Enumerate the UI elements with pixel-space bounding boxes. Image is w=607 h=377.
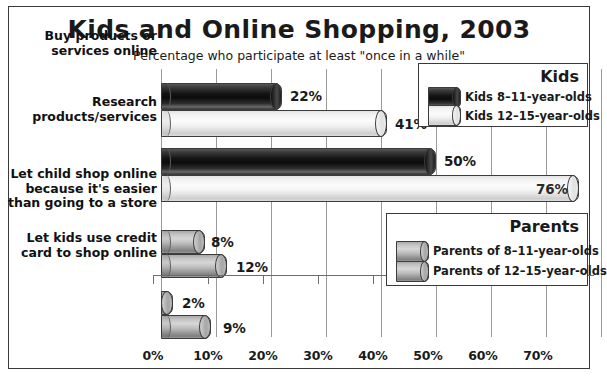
bar-right-cap <box>161 291 173 315</box>
tick-30 <box>318 275 319 284</box>
xtick-label-50: 50% <box>405 348 451 363</box>
category-label-let-child-shop: Let child shop online because it's easie… <box>7 167 157 211</box>
cat-line: services online <box>7 44 157 59</box>
legend-swatch-parents-12-15 <box>396 261 429 282</box>
bar-right-cap <box>567 175 579 202</box>
legend-label-kids-8-11: Kids 8–11-year-olds <box>465 90 592 104</box>
legend-swatch-cap <box>420 261 429 282</box>
cat-line: Buy products or <box>7 29 157 44</box>
chart-frame: Kids and Online Shopping, 2003 Percentag… <box>8 6 590 369</box>
category-labels: Buy products or services online Research… <box>9 7 157 377</box>
cat-line: products/services <box>7 110 157 125</box>
bar-research-kids-12-15 <box>161 175 579 202</box>
legend-parents-title: Parents <box>510 217 579 236</box>
bar-buy-kids-12-15 <box>161 110 387 137</box>
legend-parents: Parents Parents of 8–11-year-olds Parent… <box>386 213 588 286</box>
value-label-2: 2% <box>182 295 205 311</box>
legend-swatch-kids-12-15 <box>428 105 461 126</box>
tick-20 <box>263 275 264 284</box>
legend-kids-title: Kids <box>540 67 579 86</box>
legend-swatch-cap <box>452 105 461 126</box>
value-label-76: 76% <box>536 181 568 197</box>
category-label-buy-products: Buy products or services online <box>7 29 157 58</box>
value-label-22: 22% <box>290 88 322 104</box>
category-label-credit-card: Let kids use credit card to shop online <box>7 231 157 260</box>
bar-left-cap <box>161 148 171 175</box>
legend-kids: Kids Kids 8–11-year-olds Kids 12–15-year… <box>418 63 588 127</box>
cat-line: card to shop online <box>7 246 157 261</box>
xtick-label-30: 30% <box>295 348 341 363</box>
legend-label-kids-12-15: Kids 12–15-year-olds <box>465 109 600 123</box>
bar-right-cap <box>424 148 436 175</box>
xtick-label-60: 60% <box>460 348 506 363</box>
xtick-label-10: 10% <box>185 348 231 363</box>
bar-credit-parents-8-11 <box>161 291 173 315</box>
bar-buy-kids-8-11 <box>161 83 282 110</box>
xtick-label-40: 40% <box>350 348 396 363</box>
category-label-research: Research products/services <box>7 95 157 124</box>
legend-label-parents-8-11: Parents of 8–11-year-olds <box>433 244 599 258</box>
bar-left-cap <box>161 315 171 339</box>
xtick-label-20: 20% <box>240 348 286 363</box>
gridline-80 <box>601 69 602 337</box>
bar-credit-parents-12-15 <box>161 315 211 339</box>
value-label-8: 8% <box>211 234 234 250</box>
bar-right-cap <box>270 83 282 110</box>
cat-line: Let kids use credit <box>7 231 157 246</box>
value-label-50: 50% <box>444 153 476 169</box>
bar-left-cap <box>161 83 171 110</box>
tick-10 <box>208 275 209 284</box>
legend-swatch-parents-8-11 <box>396 241 429 262</box>
bar-left-cap <box>161 230 171 254</box>
bar-left-cap <box>161 175 171 202</box>
cat-line: Research <box>7 95 157 110</box>
bar-right-cap <box>375 110 387 137</box>
tick-40 <box>373 275 374 284</box>
cat-line: Let child shop online <box>7 167 157 182</box>
bar-left-cap <box>161 110 171 137</box>
bar-right-cap <box>199 315 211 339</box>
value-label-9: 9% <box>223 320 246 336</box>
legend-swatch-cap <box>420 241 429 262</box>
cat-line: than going to a store <box>7 196 157 211</box>
xtick-label-70: 70% <box>515 348 561 363</box>
bar-research-kids-8-11 <box>161 148 436 175</box>
cat-line: because it's easier <box>7 182 157 197</box>
legend-label-parents-12-15: Parents of 12–15-year-olds <box>433 264 607 278</box>
value-label-12: 12% <box>236 259 268 275</box>
bar-letchild-parents-8-11 <box>161 230 205 254</box>
bar-right-cap <box>193 230 205 254</box>
